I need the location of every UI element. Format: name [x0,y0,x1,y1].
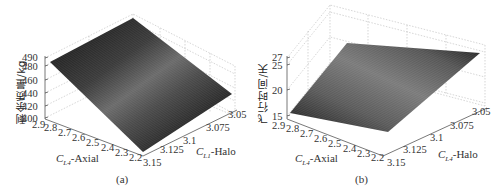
z-tick: 440 [22,88,38,99]
halo-tick: 3.15 [387,157,405,168]
z-axis-label-b: 飞行时间/天 [255,62,270,124]
chart-panel-a: 剩余质量/kg 490 480 460 440 420 400 2.9 2.8 … [0,0,250,194]
axial-tick: 2.7 [300,128,313,139]
caption-a: (a) [116,173,128,185]
axial-tick: 2.5 [86,137,99,148]
z-tick: 460 [22,75,38,86]
x-axis-label-b: CL4-Axial [295,152,338,167]
halo-tick: 3.1 [430,132,443,143]
axial-tick: 2.7 [58,127,71,138]
axial-tick: 2.2 [371,152,384,163]
axial-tick: 2.9 [272,120,285,131]
halo-tick: 3.075 [450,120,474,131]
halo-tick: 3.125 [403,144,427,155]
axial-tick: 2.3 [115,147,128,158]
surface-plot-b [250,0,497,194]
axial-tick: 2.4 [101,142,114,153]
z-tick: 420 [22,101,38,112]
axial-tick: 2.5 [328,138,341,149]
z-tick: 25 [272,60,283,71]
halo-tick: 3.05 [472,106,490,117]
caption-b: (b) [355,173,368,185]
axial-tick: 2.8 [44,122,57,133]
y-axis-label-a: CL1-Halo [196,145,236,160]
axial-tick: 2.4 [343,143,356,154]
x-axis-label-a: CL4-Axial [56,152,99,167]
axial-tick: 2.6 [72,132,85,143]
halo-tick: 3.15 [143,157,161,168]
halo-tick: 3.05 [228,109,246,120]
chart-panel-b: 飞行时间/天 27 25 20 15 2.9 2.8 2.7 2.6 2.5 2… [250,0,497,194]
halo-tick: 3.1 [183,135,196,146]
z-tick: 20 [272,85,283,96]
z-tick: 480 [22,61,38,72]
axial-tick: 2.2 [129,152,142,163]
axial-tick: 2.6 [314,133,327,144]
axial-tick: 2.8 [286,123,299,134]
halo-tick: 3.075 [206,122,230,133]
halo-tick: 3.125 [160,144,184,155]
y-axis-label-b: CL4-Halo [438,148,478,163]
axial-tick: 2.3 [357,148,370,159]
